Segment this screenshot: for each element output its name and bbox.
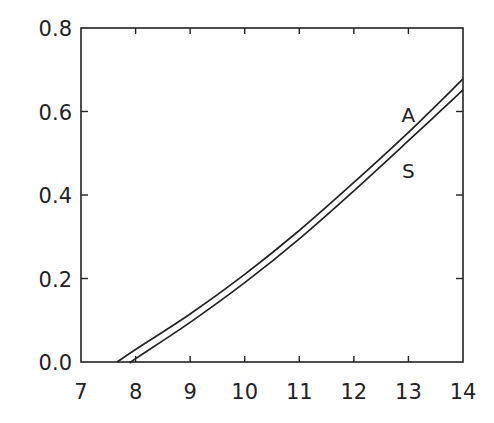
x-tick-label: 10 xyxy=(231,380,258,404)
x-axis: 7891011121314 xyxy=(74,28,476,404)
x-tick-label: 11 xyxy=(286,380,313,404)
y-tick-label: 0.0 xyxy=(39,351,72,375)
line-chart: 7891011121314 0.00.20.40.60.8 AS xyxy=(0,0,494,423)
y-axis: 0.00.20.40.60.8 xyxy=(39,17,463,375)
x-tick-label: 12 xyxy=(340,380,367,404)
y-tick-label: 0.8 xyxy=(39,17,72,41)
x-tick-label: 14 xyxy=(450,380,477,404)
x-tick-label: 7 xyxy=(74,380,87,404)
y-tick-label: 0.6 xyxy=(39,101,72,125)
y-tick-label: 0.4 xyxy=(39,184,72,208)
x-tick-label: 9 xyxy=(183,380,196,404)
plot-frame xyxy=(81,28,463,362)
curve-label-a: A xyxy=(402,103,416,127)
y-tick-label: 0.2 xyxy=(39,268,72,292)
x-tick-label: 8 xyxy=(129,380,142,404)
x-tick-label: 13 xyxy=(395,380,422,404)
curve-labels: AS xyxy=(402,103,416,183)
curve-label-s: S xyxy=(402,159,415,183)
